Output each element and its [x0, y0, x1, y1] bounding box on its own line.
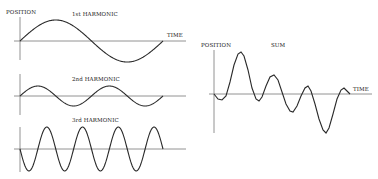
position-axis-label: POSITION: [6, 9, 36, 15]
panel-title: 3rd HARMONIC: [72, 117, 119, 123]
panel-title: SUM: [271, 42, 286, 48]
time-axis-label: TIME: [353, 86, 369, 92]
panel-3rd-harmonic: 3rd HARMONIC: [14, 117, 186, 172]
harmonics-diagram: POSITION 1st HARMONIC TIME 2nd HARMONIC …: [0, 0, 378, 179]
panel-title: 1st HARMONIC: [72, 11, 118, 17]
position-axis-label: POSITION: [201, 42, 231, 48]
panel-title: 2nd HARMONIC: [72, 76, 120, 82]
time-axis-label: TIME: [167, 32, 183, 38]
panel-1st-harmonic: POSITION 1st HARMONIC TIME: [6, 9, 186, 62]
panel-sum: POSITION SUM TIME: [201, 42, 372, 133]
wave-sum: [214, 52, 350, 133]
panel-2nd-harmonic: 2nd HARMONIC: [14, 74, 186, 115]
